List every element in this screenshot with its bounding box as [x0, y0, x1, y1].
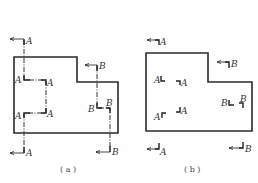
- label-a-mid-right-2: A: [180, 106, 188, 116]
- section-b-bottom-mark: [239, 142, 243, 148]
- section-a-step-mark-3: [41, 108, 46, 113]
- caption-b: ( b ): [184, 165, 200, 174]
- section-b-step-mark-2: [106, 108, 110, 113]
- arrow-left-icon: [10, 152, 24, 155]
- section-a-step-mark-2: [41, 80, 46, 85]
- arrow-left-icon: [85, 64, 97, 67]
- label-a-mid-left-1: A: [14, 75, 22, 85]
- section-a-step-mark-4: [162, 113, 166, 118]
- label-a-mid-left-2: A: [14, 111, 22, 121]
- label-b-mid-left: B: [220, 98, 228, 108]
- section-a-step-mark-1: [24, 75, 30, 80]
- section-b-top-mark: [225, 62, 229, 68]
- arrow-left-icon: [96, 151, 110, 154]
- label-b-bottom: B: [111, 147, 119, 157]
- label-a-top: A: [25, 36, 33, 46]
- panel-b: A A A A A A B B B B ( b ): [146, 37, 252, 174]
- section-b-step-mark-1: [97, 103, 102, 108]
- section-a-step-mark-1: [161, 76, 165, 81]
- label-a-mid-right-2: A: [46, 109, 54, 119]
- label-a-mid-left-2: A: [153, 112, 161, 122]
- label-b-bottom: B: [244, 144, 252, 154]
- label-a-mid-right-1: A: [46, 78, 54, 88]
- section-diagram: A A A A A A B B B B ( a ) A A: [0, 0, 258, 183]
- section-b-step-mark-1: [229, 100, 234, 105]
- label-b-top: B: [230, 59, 238, 69]
- label-a-mid-left-1: A: [153, 75, 161, 85]
- caption-a: ( a ): [60, 165, 76, 174]
- label-a-mid-right-1: A: [180, 78, 188, 88]
- label-a-top: A: [159, 37, 167, 47]
- label-b-mid-right: B: [105, 98, 113, 108]
- label-b-top: B: [98, 61, 106, 71]
- panel-a: A A A A A A B B B B ( a ): [10, 36, 119, 174]
- arrow-left-icon: [10, 38, 24, 41]
- section-a-bottom-mark: [155, 143, 159, 149]
- section-a-step-mark-2: [176, 81, 180, 85]
- section-a-step-mark-3: [176, 107, 180, 112]
- section-a-top-mark: [155, 40, 159, 45]
- label-a-bottom: A: [159, 147, 167, 157]
- label-a-bottom: A: [25, 148, 33, 158]
- label-b-mid-left: B: [87, 104, 95, 114]
- section-a-step-mark-4: [24, 113, 30, 118]
